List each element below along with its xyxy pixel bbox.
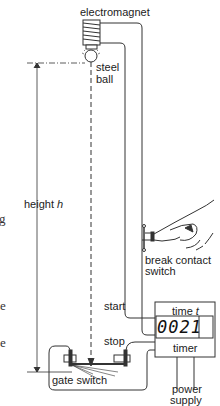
start-label: start [104, 300, 125, 312]
clipped-text-3: e [0, 337, 6, 349]
timer-display: 0021 [157, 318, 211, 337]
electromagnet-label: electromagnet [80, 6, 150, 18]
time-variable: t [196, 305, 199, 317]
height-text: height [24, 198, 57, 210]
clipped-text-2: e [0, 300, 6, 312]
hand-icon [154, 200, 214, 250]
clipped-text-1: g [0, 213, 6, 225]
height-label: height h [24, 198, 63, 210]
timer-label: timer [173, 342, 197, 354]
gate-switch-label: gate switch [52, 374, 107, 386]
time-text: time [172, 305, 196, 317]
switch-label: switch [145, 265, 176, 277]
ball-label: ball [96, 73, 113, 85]
height-variable: h [57, 198, 63, 210]
supply-label: supply [170, 394, 202, 406]
electromagnet-icon [83, 20, 100, 49]
time-label: time t [172, 305, 199, 317]
steel-label: steel [96, 61, 119, 73]
stop-label: stop [104, 335, 125, 347]
